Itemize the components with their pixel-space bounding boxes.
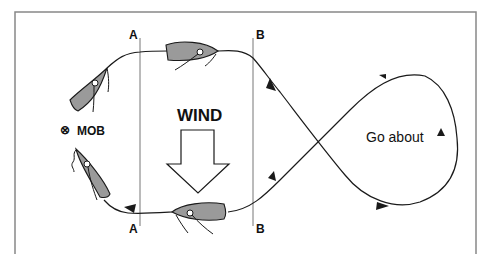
arrow-icon (268, 171, 276, 181)
label-a-top: A (129, 29, 138, 41)
course-path-top-left (107, 51, 168, 68)
course-path-bottom (104, 200, 172, 213)
mob-label: MOB (77, 125, 105, 137)
diagram-root: A A B B WIND ⊗ MOB Go about (0, 0, 489, 254)
arrow-icon (124, 204, 136, 213)
boat-lower-left (72, 149, 110, 200)
go-about-label: Go about (366, 130, 424, 144)
mob-symbol-icon: ⊗ (60, 124, 70, 136)
boat-upper-left (70, 68, 109, 112)
label-a-bottom: A (129, 223, 138, 235)
wind-label: WIND (177, 107, 222, 124)
diagram-canvas (0, 0, 489, 254)
wind-arrow-icon (167, 130, 229, 193)
arrow-icon (437, 128, 445, 136)
boat-top (166, 42, 218, 70)
boat-bottom (172, 203, 226, 234)
label-b-bottom: B (256, 223, 265, 235)
arrow-icon (379, 74, 386, 79)
label-b-top: B (256, 29, 265, 41)
